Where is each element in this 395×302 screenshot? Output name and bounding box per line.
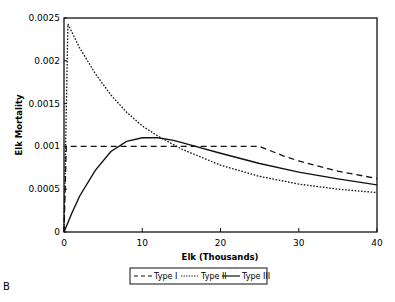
legend-label: Type I [153,272,177,281]
y-tick-label: 0.001 [34,141,60,151]
series-line-type-i [64,146,377,232]
series-lines [64,24,377,232]
elk-mortality-chart: 00.00050.0010.00150.0020.0025 010203040 … [0,0,395,302]
y-tick-label: 0.0015 [29,99,61,109]
x-tick-label: 0 [61,238,67,248]
x-tick-label: 40 [371,238,383,248]
legend-label: Type III [241,272,270,281]
y-tick-label: 0.002 [34,56,60,66]
x-tick-label: 20 [215,238,227,248]
x-tick-label: 10 [137,238,149,248]
y-tick-label: 0.0025 [29,13,61,23]
y-axis-ticks: 00.00050.0010.00150.0020.0025 [29,13,68,237]
y-tick-label: 0 [54,227,60,237]
panel-label: B [3,281,10,292]
x-axis-label: Elk (Thousands) [182,252,259,262]
plot-area-frame [64,18,377,232]
y-tick-label: 0.0005 [29,184,61,194]
legend: Type IType IIType III [130,268,270,284]
y-axis-label: Elk Mortality [14,94,24,156]
x-tick-label: 30 [293,238,305,248]
series-line-type-ii [64,24,377,232]
series-line-type-iii [64,138,377,232]
x-axis-ticks: 010203040 [61,228,383,248]
